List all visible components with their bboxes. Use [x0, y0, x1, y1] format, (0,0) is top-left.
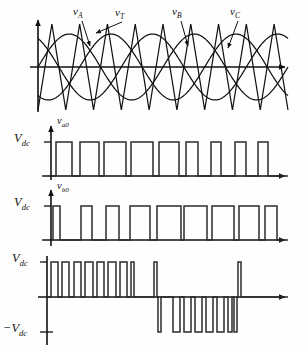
label-vb: vB [172, 6, 181, 20]
label-vdc-panel4: Vdc [12, 252, 28, 267]
panel-carrier-references [30, 20, 288, 112]
panel-va0 [42, 126, 288, 180]
pwm-waveform-figure: vA vT vB vC va0 vb0 Vdc Vdc Vdc −Vdc [0, 0, 307, 351]
leader-line-vb [181, 21, 188, 46]
pole-voltage-b-waveform [51, 206, 288, 240]
panel-vb0 [42, 190, 288, 246]
waveform-canvas [0, 0, 307, 351]
pole-voltage-a-waveform [51, 142, 288, 176]
label-vdc-panel3: Vdc [14, 196, 30, 211]
label-va: vA [73, 6, 82, 20]
label-vdc-panel2: Vdc [14, 132, 30, 147]
label-va0: va0 [57, 116, 69, 129]
label-vc: vC [230, 6, 240, 20]
label-neg-vdc-panel4: −Vdc [3, 322, 27, 337]
label-vt: vT [115, 7, 124, 21]
line-voltage-ab-waveform [47, 262, 288, 332]
panel-vab [38, 256, 288, 345]
label-vb0: vb0 [57, 181, 69, 194]
